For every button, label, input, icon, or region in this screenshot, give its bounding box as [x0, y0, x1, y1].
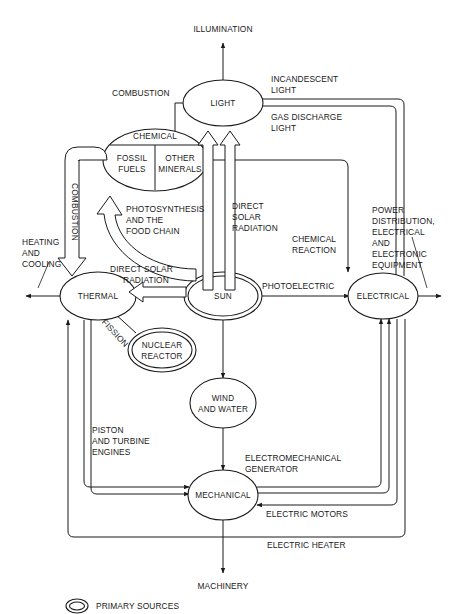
node-wind-water-line2: AND WATER [198, 405, 248, 414]
label-direct-solar-vertical-3: RADIATION [232, 223, 278, 233]
legend-primary-sources-label: PRIMARY SOURCES [96, 601, 179, 611]
node-chemical[interactable]: CHEMICAL FOSSIL FUELS OTHER MINERALS [103, 129, 207, 191]
label-direct-solar-horizontal-1: DIRECT SOLAR [110, 264, 173, 274]
label-photosynthesis-1: PHOTOSYNTHESIS [126, 204, 205, 214]
node-light[interactable]: LIGHT [183, 80, 263, 126]
label-incandescent-light-1: INCANDESCENT [271, 74, 338, 84]
terminal-machinery: MACHINERY [197, 581, 248, 591]
label-heating-1: HEATING [22, 237, 59, 247]
legend-primary-sources: PRIMARY SOURCES [66, 599, 179, 613]
node-wind-water-line1: WIND [212, 394, 235, 403]
label-piston-3: ENGINES [92, 447, 131, 457]
label-photosynthesis-3: FOOD CHAIN [126, 226, 180, 236]
label-piston-2: AND TURBINE [92, 436, 150, 446]
flow-electric-motors [257, 319, 397, 505]
label-power-distribution-6: EQUIPMENT [372, 260, 423, 270]
flow-chemical-reaction [200, 160, 348, 272]
node-wind-and-water[interactable]: WIND AND WATER [190, 378, 256, 428]
label-photoelectric: PHOTOELECTRIC [262, 281, 334, 291]
label-direct-solar-vertical-2: SOLAR [232, 212, 261, 222]
node-electrical-label: ELECTRICAL [357, 292, 410, 301]
label-electric-heater: ELECTRIC HEATER [267, 540, 346, 550]
node-nuclear-label-line2: REACTOR [141, 352, 182, 361]
label-piston-1: PISTON [92, 425, 124, 435]
node-chemical-fossil-line2: FUELS [118, 165, 146, 174]
node-mechanical-label: MECHANICAL [195, 491, 251, 500]
node-nuclear-label-line1: NUCLEAR [142, 341, 183, 350]
node-light-label: LIGHT [210, 99, 235, 108]
label-direct-solar-vertical-1: DIRECT [232, 201, 264, 211]
label-power-distribution-3: ELECTRICAL [372, 227, 425, 237]
label-electromechanical-1: ELECTROMECHANICAL [245, 453, 341, 463]
label-electromechanical-2: GENERATOR [245, 464, 298, 474]
label-heating-2: AND [22, 248, 40, 258]
flow-direct-solar-radiation-to-thermal [129, 282, 186, 302]
node-sun-label: SUN [214, 292, 232, 301]
label-combustion-to-light: COMBUSTION [112, 88, 170, 98]
label-gas-discharge-2: LIGHT [271, 123, 296, 133]
label-fission: FISSION [100, 317, 131, 349]
label-power-distribution-2: DISTRIBUTION, [372, 216, 435, 226]
label-direct-solar-horizontal-2: RADIATION [123, 275, 169, 285]
diagram-canvas: LIGHT CHEMICAL FOSSIL FUELS OTHER MINERA… [0, 0, 449, 614]
label-power-distribution-1: POWER [372, 205, 404, 215]
label-electric-motors: ELECTRIC MOTORS [266, 509, 348, 519]
node-mechanical[interactable]: MECHANICAL [188, 470, 258, 520]
label-chemical-reaction-1: CHEMICAL [292, 234, 336, 244]
label-chemical-reaction-2: REACTION [292, 245, 336, 255]
label-photosynthesis-2: AND THE [126, 215, 164, 225]
node-electrical[interactable]: ELECTRICAL [348, 273, 418, 319]
label-gas-discharge-1: GAS DISCHARGE [271, 112, 342, 122]
node-nuclear-reactor[interactable]: NUCLEAR REACTOR [128, 328, 196, 372]
label-power-distribution-4: AND [372, 238, 390, 248]
energy-flow-diagram: LIGHT CHEMICAL FOSSIL FUELS OTHER MINERA… [0, 0, 449, 614]
label-combustion-to-thermal: COMBUSTION [70, 183, 80, 241]
node-thermal-label: THERMAL [78, 292, 119, 301]
label-power-distribution-5: ELECTRONIC [372, 249, 427, 259]
node-chemical-label: CHEMICAL [133, 132, 177, 141]
node-chemical-fossil-line1: FOSSIL [117, 154, 148, 163]
label-heating-3: COOLING [22, 259, 61, 269]
terminal-illumination: ILLUMINATION [193, 24, 252, 34]
label-incandescent-light-2: LIGHT [271, 85, 296, 95]
node-chemical-other-line2: MINERALS [158, 165, 202, 174]
node-chemical-other-line1: OTHER [165, 154, 195, 163]
